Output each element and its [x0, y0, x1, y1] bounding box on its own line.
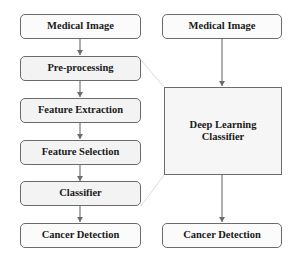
step-label: Medical Image [189, 20, 256, 32]
step-label: Pre-processing [47, 62, 113, 74]
left-step-feature-selection: Feature Selection [20, 140, 141, 165]
bracket-line-bottom [141, 175, 164, 206]
bracket-line-top [141, 60, 164, 87]
right-step-medical-image: Medical Image [162, 14, 282, 39]
step-label: Cancer Detection [183, 229, 261, 241]
right-step-cancer-detection: Cancer Detection [162, 223, 282, 248]
step-label: Classifier [59, 187, 102, 199]
left-step-medical-image: Medical Image [20, 14, 141, 39]
step-label: Medical Image [47, 20, 114, 32]
step-label-line2: Classifier [202, 131, 245, 143]
left-step-classifier: Classifier [20, 181, 141, 206]
bracket-lines [141, 60, 164, 206]
step-label: Feature Extraction [38, 104, 123, 116]
step-label-line1: Deep Learning [190, 119, 257, 131]
step-label: Feature Selection [42, 146, 120, 158]
left-step-pre-processing: Pre-processing [20, 56, 141, 81]
diagram-canvas: Medical Image Pre-processing Feature Ext… [0, 0, 298, 264]
left-step-feature-extraction: Feature Extraction [20, 98, 141, 123]
step-label: Cancer Detection [42, 229, 120, 241]
left-step-cancer-detection: Cancer Detection [20, 223, 141, 248]
right-step-deep-learning-classifier: Deep Learning Classifier [164, 87, 282, 175]
